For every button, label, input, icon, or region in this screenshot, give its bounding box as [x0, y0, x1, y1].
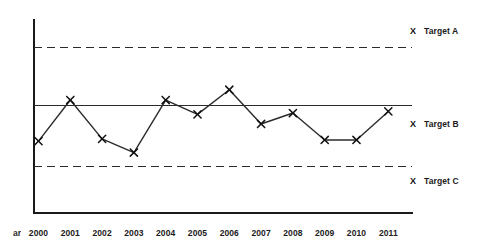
legend-label-target-a: Target A [424, 26, 458, 36]
legend-label-target-c: Target C [424, 176, 459, 186]
legend-marker-icon: X [410, 119, 424, 129]
x-tick-label-2007: 2007 [251, 228, 270, 238]
legend-marker-icon: X [410, 176, 424, 186]
x-tick-label-2005: 2005 [188, 228, 207, 238]
x-tick-label-2006: 2006 [220, 228, 239, 238]
legend-marker-icon: X [410, 26, 424, 36]
series-line-performance [39, 90, 389, 153]
legend-label-target-b: Target B [424, 119, 459, 129]
x-tick-label-2002: 2002 [92, 228, 111, 238]
x-tick-label-2000: 2000 [29, 228, 48, 238]
x-tick-label-2011: 2011 [379, 228, 398, 238]
x-tick-label-2008: 2008 [283, 228, 302, 238]
x-tick-label-2010: 2010 [347, 228, 366, 238]
x-axis-caption: ar [13, 228, 21, 238]
legend-item-target-c: X Target C [410, 176, 459, 186]
x-tick-label-2001: 2001 [61, 228, 80, 238]
x-tick-label-2003: 2003 [124, 228, 143, 238]
legend-item-target-b: X Target B [410, 119, 459, 129]
legend-item-target-a: X Target A [410, 26, 458, 36]
line-chart: 2000200120022003200420052006200720082009… [0, 0, 484, 249]
x-tick-label-2004: 2004 [156, 228, 175, 238]
x-tick-label-2009: 2009 [315, 228, 334, 238]
